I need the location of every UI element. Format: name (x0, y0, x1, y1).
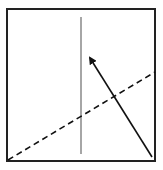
arrow-vector (90, 58, 152, 157)
diagram-canvas (0, 0, 163, 170)
